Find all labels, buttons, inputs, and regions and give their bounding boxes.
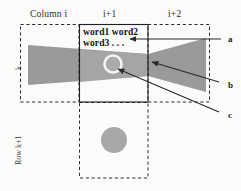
row-label-k: k bbox=[14, 66, 23, 70]
shape-right-trapezoid bbox=[148, 38, 206, 92]
column-header-i-plus-1: i+1 bbox=[103, 9, 116, 19]
column-header-i-plus-2: i+2 bbox=[168, 9, 181, 19]
annotation-label-c: c bbox=[228, 110, 232, 120]
annotation-label-b: b bbox=[228, 80, 233, 90]
column-header-i: Column i bbox=[30, 9, 67, 19]
annotation-label-a: a bbox=[228, 34, 233, 44]
row-label-k-plus-1: Row k+1 bbox=[14, 135, 23, 165]
lower-circle bbox=[101, 127, 127, 153]
highlight-circle bbox=[106, 57, 120, 71]
cell-text-line-1: word1 word2 bbox=[83, 27, 138, 38]
figure-container: Column i i+1 i+2 k Row k+1 word1 word2 w… bbox=[0, 0, 241, 191]
cell-text-line-2: word3 . . . bbox=[83, 38, 124, 49]
